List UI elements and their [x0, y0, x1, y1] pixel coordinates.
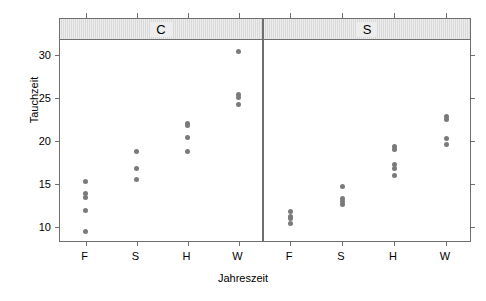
panel-strip-s: S — [263, 18, 471, 40]
x-axis-tick — [239, 241, 240, 246]
x-axis-tick-label: H — [183, 250, 191, 262]
data-point — [83, 229, 88, 234]
data-point — [392, 173, 397, 178]
x-axis-tick-label: F — [81, 250, 88, 262]
y-axis-tick-label: 20 — [39, 135, 51, 147]
y-axis-tick — [55, 98, 60, 99]
x-axis-tick — [290, 241, 291, 246]
panel-strip-c: C — [59, 18, 263, 40]
panel-strip-label: S — [357, 22, 378, 37]
data-point — [444, 142, 449, 147]
top-axis-tick — [239, 13, 240, 18]
x-axis-tick-label: H — [389, 250, 397, 262]
data-point — [444, 136, 449, 141]
panel-c: C 1015202530FSHW — [59, 18, 263, 242]
y-axis-tick — [55, 227, 60, 228]
plot-area-c — [59, 40, 263, 242]
y-axis-tick — [470, 184, 475, 185]
x-axis-tick — [137, 241, 138, 246]
y-axis-tick-label: 25 — [39, 92, 51, 104]
y-axis-tick-label: 15 — [39, 178, 51, 190]
y-axis-tick-label: 30 — [39, 49, 51, 61]
y-axis-tick — [470, 227, 475, 228]
x-axis-title: Jahreszeit — [0, 272, 486, 284]
data-point — [340, 184, 345, 189]
y-axis-tick — [55, 184, 60, 185]
x-axis-tick — [394, 241, 395, 246]
y-axis-tick — [55, 141, 60, 142]
y-axis-tick — [470, 55, 475, 56]
data-point — [185, 123, 190, 128]
data-point — [185, 149, 190, 154]
panel-strip-label: C — [150, 22, 171, 37]
y-axis-tick — [470, 141, 475, 142]
top-axis-tick — [86, 13, 87, 18]
top-axis-tick — [394, 13, 395, 18]
x-axis-tick-label: S — [337, 250, 344, 262]
y-axis-tick-label: 10 — [39, 221, 51, 233]
data-point — [236, 102, 241, 107]
x-axis-tick-label: W — [440, 250, 450, 262]
panel-s: S FSHW — [263, 18, 471, 242]
data-point — [236, 49, 241, 54]
data-point — [83, 179, 88, 184]
x-axis-tick-label: W — [232, 250, 242, 262]
top-axis-tick — [290, 13, 291, 18]
x-axis-tick-label: F — [286, 250, 293, 262]
data-point — [444, 117, 449, 122]
data-point — [340, 202, 345, 207]
data-point — [83, 208, 88, 213]
x-axis-tick — [446, 241, 447, 246]
data-point — [392, 147, 397, 152]
top-axis-tick — [188, 13, 189, 18]
data-point — [236, 95, 241, 100]
x-axis-tick-label: S — [132, 250, 139, 262]
y-axis-tick — [470, 98, 475, 99]
x-axis-tick — [188, 241, 189, 246]
data-point — [83, 195, 88, 200]
top-axis-tick — [137, 13, 138, 18]
stripplot-figure: Tauchzeit Jahreszeit C 1015202530FSHW S … — [0, 0, 486, 301]
x-axis-tick — [86, 241, 87, 246]
data-point — [134, 166, 139, 171]
data-point — [134, 149, 139, 154]
data-point — [185, 135, 190, 140]
x-axis-tick — [342, 241, 343, 246]
top-axis-tick — [446, 13, 447, 18]
plot-area-s — [263, 40, 471, 242]
data-point — [288, 221, 293, 226]
top-axis-tick — [342, 13, 343, 18]
data-point — [392, 166, 397, 171]
data-point — [134, 177, 139, 182]
y-axis-tick — [55, 55, 60, 56]
